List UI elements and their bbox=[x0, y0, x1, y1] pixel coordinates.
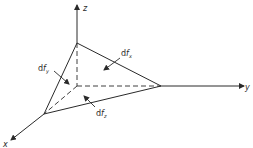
force-label-dfz: dfz bbox=[96, 109, 107, 119]
force-arrow-dfz bbox=[84, 96, 95, 107]
force-label-dfx: dfx bbox=[121, 49, 132, 59]
edge-top-right bbox=[77, 43, 161, 86]
force-label-dfy: dfy bbox=[38, 64, 50, 75]
y-axis-label: y bbox=[244, 83, 250, 92]
x-axis bbox=[11, 114, 44, 140]
edge-top-left bbox=[44, 43, 77, 114]
z-axis-label: z bbox=[82, 4, 88, 13]
x-axis-label: x bbox=[2, 140, 8, 148]
force-arrow-dfy bbox=[54, 71, 69, 84]
tetrahedron-diagram: z y x dfx dfy dfz bbox=[0, 0, 253, 148]
